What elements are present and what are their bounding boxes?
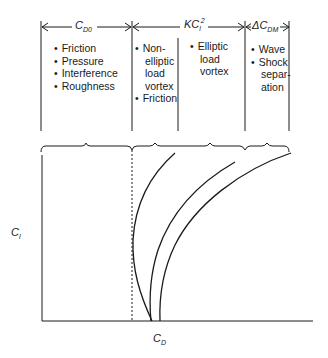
item-interference: Interference bbox=[54, 67, 118, 80]
item-shock: Shock bbox=[251, 56, 291, 69]
header-kcl2: KCl2 bbox=[181, 17, 208, 32]
brace-2 bbox=[173, 143, 289, 152]
header-delta-cdm: ΔCDM bbox=[251, 19, 279, 33]
column-wave-items: Wave Shock separ- ation bbox=[251, 43, 291, 93]
column-nonelliptic-items: Non- elliptic load vortex Friction bbox=[135, 42, 177, 105]
curve-1 bbox=[133, 153, 175, 321]
item-wave: Wave bbox=[251, 43, 291, 56]
column-cd0-items: Friction Pressure Interference Roughness bbox=[54, 42, 118, 92]
item-roughness: Roughness bbox=[54, 80, 118, 93]
item-elliptic: Elliptic bbox=[190, 40, 229, 53]
item-friction-2: Friction bbox=[135, 92, 177, 105]
curve-3 bbox=[160, 153, 291, 321]
item-pressure: Pressure bbox=[54, 55, 118, 68]
x-axis-label: CD bbox=[153, 332, 166, 346]
item-non: Non- bbox=[135, 42, 177, 55]
y-axis-label: Cl bbox=[11, 226, 21, 240]
item-friction: Friction bbox=[54, 42, 118, 55]
header-cd0: CD0 bbox=[72, 19, 95, 33]
column-elliptic-items: Elliptic load vortex bbox=[190, 40, 229, 78]
brace-1 bbox=[41, 143, 173, 152]
curve-2 bbox=[150, 162, 235, 321]
